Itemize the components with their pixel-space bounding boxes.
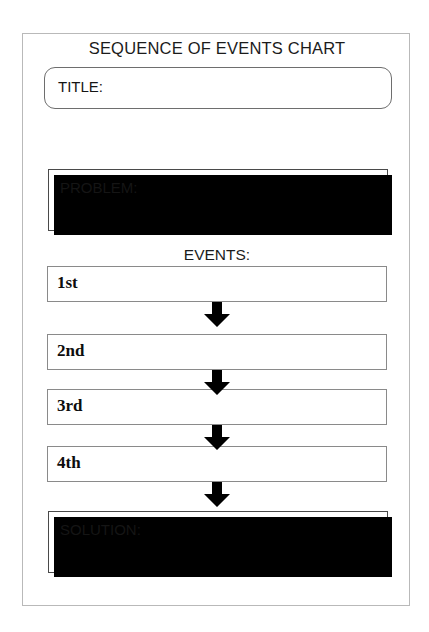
arrow-down-icon xyxy=(203,302,231,327)
page-title: SEQUENCE OF EVENTS CHART xyxy=(23,39,411,58)
solution-field[interactable]: SOLUTION: xyxy=(48,511,388,573)
event-field-2nd[interactable]: 2nd xyxy=(47,334,387,370)
event-ordinal-label: 4th xyxy=(57,453,81,473)
event-ordinal-label: 1st xyxy=(57,273,78,293)
title-field[interactable]: TITLE: xyxy=(44,67,392,109)
event-ordinal-label: 2nd xyxy=(57,341,84,361)
worksheet-page: SEQUENCE OF EVENTS CHART TITLE: PROBLEM:… xyxy=(22,33,410,606)
event-ordinal-label: 3rd xyxy=(57,396,83,416)
problem-field-label: PROBLEM: xyxy=(60,179,138,196)
event-field-1st[interactable]: 1st xyxy=(47,266,387,302)
events-section-label: EVENTS: xyxy=(23,246,411,264)
event-field-4th[interactable]: 4th xyxy=(47,446,387,482)
arrow-down-icon xyxy=(203,425,231,450)
title-field-label: TITLE: xyxy=(58,78,103,95)
arrow-down-icon xyxy=(203,370,231,395)
arrow-down-icon xyxy=(203,482,231,507)
problem-field[interactable]: PROBLEM: xyxy=(48,169,388,231)
solution-field-label: SOLUTION: xyxy=(60,521,141,538)
